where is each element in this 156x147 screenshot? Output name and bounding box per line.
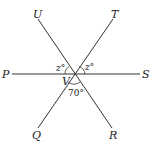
angle-right-z: z° — [84, 62, 94, 72]
label-R: R — [108, 129, 117, 142]
label-P: P — [1, 68, 10, 81]
label-V: V — [62, 75, 71, 88]
angle-left-z: z° — [55, 63, 65, 73]
label-S: S — [142, 68, 150, 81]
label-U: U — [33, 8, 43, 21]
arc-left-z — [65, 67, 69, 75]
label-Q: Q — [32, 129, 41, 142]
angle-diagram: U T P S Q R V z° z° 70° — [0, 0, 156, 147]
angle-bottom-70: 70° — [68, 88, 84, 98]
label-T: T — [111, 8, 120, 21]
